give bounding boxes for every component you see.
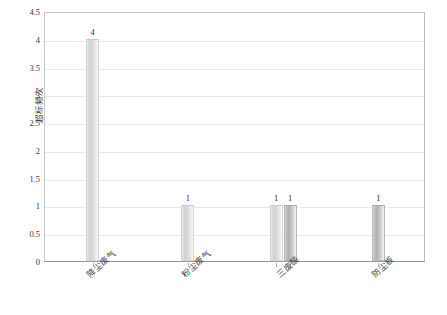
y-axis-tick-label: 4.5 [16,8,40,16]
y-axis-tick-label: 3 [16,91,40,99]
bar [181,205,194,261]
y-axis-tick-label: 0 [16,258,40,266]
gridline [45,207,424,208]
y-axis-tick-label: 2.5 [16,119,40,127]
bar-value-label: 1 [366,194,391,203]
bar-value-label: 1 [175,194,200,203]
y-axis-tick-labels: 00.511.522.533.544.5 [14,0,40,315]
y-axis-tick-label: 2 [16,147,40,155]
gridline [45,124,424,125]
y-axis-tick-label: 0.5 [16,230,40,238]
bar [284,205,297,261]
y-axis-tick-label: 1 [16,202,40,210]
bar-value-label: 1 [278,194,303,203]
gridline [45,235,424,236]
bar-value-label: 4 [80,28,105,37]
gridline [45,180,424,181]
bar [270,205,283,261]
bar [86,39,99,261]
gridline [45,152,424,153]
gridline [45,41,424,42]
plot-area: 41111 [44,12,425,262]
y-axis-tick-label: 4 [16,36,40,44]
y-axis-tick-label: 3.5 [16,64,40,72]
gridline [45,96,424,97]
y-axis-tick-label: 1.5 [16,175,40,183]
bar-chart: 超标频次 00.511.522.533.544.5 41111 降尘废气粉尘废气… [0,0,447,315]
gridline [45,69,424,70]
bar [372,205,385,261]
